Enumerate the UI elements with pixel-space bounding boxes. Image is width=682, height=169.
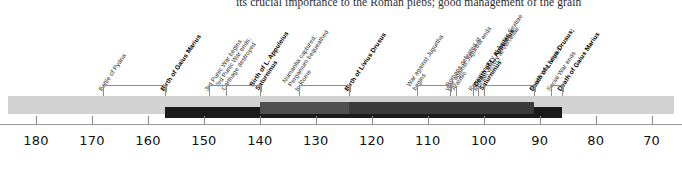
axis-tick-label: 160 [135, 133, 160, 148]
axis-line [0, 124, 682, 125]
axis-tick [316, 116, 317, 125]
axis-tick-label: 70 [643, 133, 660, 148]
axis-tick-label: 90 [531, 133, 548, 148]
axis-tick-label: 140 [247, 133, 272, 148]
axis-tick-label: 110 [415, 133, 440, 148]
axis-tick [36, 116, 37, 125]
leader-line [478, 86, 479, 96]
axis-tick [204, 116, 205, 125]
axis-tick-label: 100 [471, 133, 496, 148]
axis-tick-label: 170 [79, 133, 104, 148]
axis-tick [652, 116, 653, 125]
leader-bracket [103, 85, 167, 92]
axis-tick [596, 116, 597, 125]
leader-bracket [209, 85, 261, 92]
axis-tick [428, 116, 429, 125]
axis-tick-label: 130 [303, 133, 328, 148]
leader-line-group [0, 84, 682, 96]
leader-bracket [299, 85, 351, 92]
axis-tick-label: 120 [359, 133, 384, 148]
event-label: Birth of Livius Drusus [343, 31, 388, 92]
time-axis: 180170160150140130120110100908070 [0, 124, 682, 169]
axis-tick [260, 116, 261, 125]
axis-tick [540, 116, 541, 125]
leader-bracket [484, 85, 536, 92]
leader-bracket [551, 85, 564, 92]
axis-tick [92, 116, 93, 125]
axis-tick [148, 116, 149, 125]
lifespan-bar-livius-drusus-life [349, 102, 534, 114]
axis-tick-label: 180 [23, 133, 48, 148]
lifespan-bar-group [0, 96, 682, 124]
event-label-group: Battle of PydnaBirth of Gaius Marius3rd … [0, 0, 682, 92]
leader-bracket [417, 85, 453, 92]
leader-line [456, 86, 457, 96]
axis-tick-label: 150 [191, 133, 216, 148]
event-label-line: Birth of Livius Drusus [343, 31, 388, 92]
leader-line [473, 84, 474, 96]
axis-tick-label: 80 [587, 133, 604, 148]
axis-tick [372, 116, 373, 125]
timeline-figure: its crucial importance to the Roman pleb… [0, 0, 682, 169]
axis-tick [484, 116, 485, 125]
